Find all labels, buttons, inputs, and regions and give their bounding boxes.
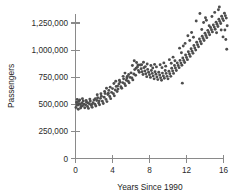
data-point <box>149 76 152 79</box>
data-point <box>124 84 127 87</box>
data-point <box>148 73 151 76</box>
data-point <box>143 69 146 72</box>
data-point <box>188 39 191 42</box>
data-point <box>85 99 88 102</box>
data-point <box>88 98 91 101</box>
data-point <box>218 6 221 9</box>
data-point <box>155 76 158 79</box>
data-point <box>146 63 149 66</box>
x-tick-label: 12 <box>182 166 192 175</box>
data-point <box>220 29 223 32</box>
data-point <box>122 75 125 78</box>
data-point <box>215 31 218 34</box>
data-point <box>167 70 170 73</box>
data-point <box>175 69 178 72</box>
data-point <box>153 63 156 66</box>
data-point <box>125 77 128 80</box>
data-point-group <box>75 6 229 111</box>
data-point <box>181 56 184 59</box>
data-point <box>159 63 162 66</box>
data-point <box>225 48 228 51</box>
data-point <box>205 36 208 39</box>
data-point <box>140 63 143 66</box>
data-point <box>190 31 193 34</box>
data-point <box>135 61 138 64</box>
x-tick-label: 0 <box>73 166 78 175</box>
data-point <box>172 72 175 75</box>
data-point <box>178 66 181 69</box>
data-point <box>144 65 147 68</box>
data-point <box>186 34 189 37</box>
data-point <box>127 73 130 76</box>
data-point <box>167 77 170 80</box>
data-point <box>91 106 94 109</box>
data-point <box>197 45 200 48</box>
y-tick-label: 250,000 <box>38 127 68 136</box>
data-point <box>147 71 150 74</box>
data-point <box>172 56 175 59</box>
data-point <box>173 64 176 67</box>
data-point <box>184 54 187 57</box>
data-point <box>152 75 155 78</box>
data-point <box>217 25 220 28</box>
x-tick-label: 16 <box>219 166 229 175</box>
data-point <box>182 45 185 48</box>
data-point <box>217 8 220 11</box>
data-point <box>204 16 207 19</box>
data-point <box>79 107 82 110</box>
data-point <box>102 102 105 105</box>
data-point <box>144 72 147 75</box>
data-point <box>226 24 229 27</box>
data-point <box>162 61 165 64</box>
data-point <box>153 77 156 80</box>
data-point <box>155 73 158 76</box>
data-point <box>158 74 161 77</box>
x-axis-ticks: 0481216 <box>73 155 228 176</box>
data-point <box>168 72 171 75</box>
chart-canvas: 0250,000500,000750,0001,000,0001,250,000… <box>0 0 235 194</box>
data-point <box>160 79 163 82</box>
data-point <box>189 55 192 58</box>
data-point <box>161 66 164 69</box>
data-point <box>159 76 162 79</box>
data-point <box>99 92 102 95</box>
data-point <box>163 77 166 80</box>
data-point <box>208 24 211 27</box>
data-point <box>170 67 173 70</box>
data-point <box>213 11 216 14</box>
data-point <box>161 72 164 75</box>
data-point <box>210 15 213 18</box>
data-point <box>90 103 93 106</box>
data-point <box>165 72 168 75</box>
data-point <box>109 97 112 100</box>
data-point <box>116 85 119 88</box>
data-point <box>224 38 227 41</box>
data-point <box>171 69 174 72</box>
data-point <box>157 71 160 74</box>
data-point <box>140 67 143 70</box>
data-point <box>195 20 198 23</box>
data-point <box>187 50 190 53</box>
data-point <box>131 64 134 67</box>
data-point <box>180 64 183 67</box>
data-point <box>164 65 167 68</box>
data-point <box>98 103 101 106</box>
data-point <box>135 67 138 70</box>
data-point <box>194 49 197 52</box>
data-point <box>131 78 134 81</box>
data-point <box>120 87 123 90</box>
data-point <box>200 28 203 31</box>
data-point <box>128 81 131 84</box>
data-point <box>94 97 97 100</box>
y-axis-title: Passengers <box>6 64 16 108</box>
data-point <box>225 17 228 20</box>
y-tick-label: 1,250,000 <box>32 19 69 28</box>
data-point <box>181 82 184 85</box>
data-point <box>192 52 195 55</box>
scatter-plot-figure: 0250,000500,000750,0001,000,0001,250,000… <box>0 0 235 194</box>
data-point <box>164 69 167 72</box>
data-point <box>211 30 214 33</box>
data-point <box>224 14 227 17</box>
data-point <box>145 75 148 78</box>
data-point <box>77 100 80 103</box>
